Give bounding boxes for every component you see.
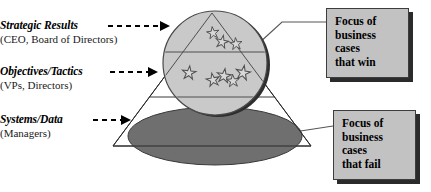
callout-win-line-4: that win	[335, 56, 408, 70]
tier-label-systems-data: Systems/Data (Managers)	[0, 113, 180, 140]
callout-fail-line-2: business	[342, 131, 415, 145]
tier-title-objectives-tactics: Objectives/Tactics	[0, 65, 180, 78]
callout-fail-line-4: that fail	[342, 158, 415, 172]
tier-title-systems-data: Systems/Data	[0, 113, 180, 126]
callout-box-win: Focus of business cases that win	[326, 8, 409, 78]
callout-win-line-3: cases	[335, 42, 408, 56]
callout-fail-line-3: cases	[342, 144, 415, 158]
callout-win-line-2: business	[335, 29, 408, 43]
diagram-canvas: Strategic Results (CEO, Board of Directo…	[0, 0, 431, 192]
tier-subtitle-systems-data: (Managers)	[0, 127, 180, 140]
tier-subtitle-objectives-tactics: (VPs, Directors)	[0, 79, 180, 92]
tier-label-strategic-results: Strategic Results (CEO, Board of Directo…	[0, 19, 180, 46]
callout-win-line-1: Focus of	[335, 15, 408, 29]
callout-fail-line-1: Focus of	[342, 117, 415, 131]
tier-label-objectives-tactics: Objectives/Tactics (VPs, Directors)	[0, 65, 180, 92]
connector-line-win	[258, 22, 326, 44]
tier-subtitle-strategic-results: (CEO, Board of Directors)	[0, 33, 180, 46]
tier-title-strategic-results: Strategic Results	[0, 19, 180, 32]
callout-box-fail: Focus of business cases that fail	[333, 110, 416, 180]
